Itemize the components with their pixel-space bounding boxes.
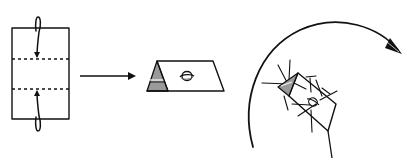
paper-rectangle — [12, 28, 69, 119]
origami-diagram — [0, 0, 412, 168]
curved-rotate-arrow — [249, 22, 398, 147]
fold-arrow-bottom-icon — [36, 92, 41, 131]
rotate-symbol-icon — [180, 72, 194, 81]
step-3-rotating-paper — [249, 22, 402, 158]
rotate-symbol-icon-tilted — [307, 96, 319, 108]
gray-triangle-end-tilted — [278, 73, 298, 96]
diagram-svg — [0, 0, 412, 168]
step-2-folded-paper — [147, 61, 224, 91]
gray-triangle-end — [147, 61, 168, 91]
tilted-parallelogram-outline — [289, 73, 336, 131]
step-1-paper — [12, 17, 69, 131]
tail-line — [328, 131, 332, 158]
fold-arrow-top-icon — [36, 17, 41, 56]
